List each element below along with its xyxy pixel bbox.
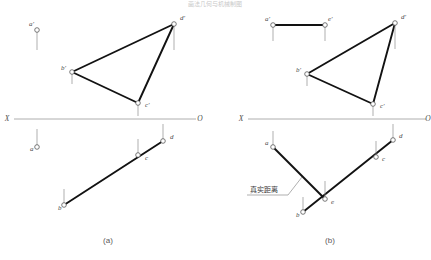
panel-b: XOa'e'b'c'd'aebcd真实距离(b)	[238, 13, 431, 245]
b-prime-marker	[305, 72, 310, 77]
c-prime-label: c'	[380, 102, 385, 110]
a-prime-marker	[35, 28, 40, 33]
edge-c-prime-b-prime	[72, 72, 138, 103]
descriptive-geometry-figure: 画法几何与机械制图XOa'b'c'd'abcd(a)XOa'e'b'c'd'ae…	[0, 0, 431, 260]
e-prime-label: e'	[328, 15, 333, 23]
a-prime-label: a'	[265, 15, 271, 23]
figure-title: 画法几何与机械制图	[188, 0, 242, 8]
c-point-marker	[136, 153, 141, 158]
axis-label-o: O	[425, 114, 431, 123]
b-point-label: b	[296, 211, 300, 219]
c-prime-marker	[371, 102, 376, 107]
a-point-marker	[271, 145, 276, 150]
d-point-marker	[391, 138, 396, 143]
e-point-label: e	[331, 198, 334, 206]
panel-a: XOa'b'c'd'abcd(a)	[4, 14, 204, 245]
d-prime-label: d'	[401, 13, 407, 21]
panel-b-caption: (b)	[325, 236, 335, 245]
axis-label-x: X	[4, 114, 10, 123]
b-point-label: b	[58, 204, 62, 212]
edge-b-prime-d-prime	[72, 24, 174, 72]
edge-d-prime-c-prime	[138, 24, 174, 103]
figure-root: 画法几何与机械制图XOa'b'c'd'abcd(a)XOa'e'b'c'd'ae…	[0, 0, 431, 260]
b-point-marker	[301, 210, 306, 215]
c-point-marker	[374, 155, 379, 160]
edge-b-d-plan	[303, 140, 393, 212]
a-point-label: a	[265, 139, 269, 147]
edge-a-e-plan	[273, 147, 325, 199]
d-prime-marker	[393, 21, 398, 26]
c-point-label: c	[382, 155, 386, 163]
a-point-label: a	[30, 145, 34, 153]
b-prime-label: b'	[296, 66, 302, 74]
e-prime-marker	[323, 23, 328, 28]
c-prime-label: c'	[145, 101, 150, 109]
edge-b-d-plan	[64, 141, 163, 205]
b-point-marker	[62, 203, 67, 208]
a-prime-label: a'	[29, 20, 35, 28]
b-prime-label: b'	[61, 64, 67, 72]
b-prime-marker	[70, 70, 75, 75]
true-distance-note-text: 真实距离	[250, 185, 278, 194]
a-prime-marker	[271, 23, 276, 28]
axis-label-x: X	[238, 114, 244, 123]
a-point-marker	[35, 145, 40, 150]
d-prime-label: d'	[180, 14, 186, 22]
edge-b-prime-d-prime	[307, 23, 395, 74]
d-point-label: d	[170, 133, 174, 141]
d-point-marker	[161, 139, 166, 144]
e-point-marker	[323, 197, 328, 202]
c-point-label: c	[145, 154, 149, 162]
c-prime-marker	[136, 101, 141, 106]
d-point-label: d	[399, 132, 403, 140]
edge-c-prime-b-prime	[307, 74, 373, 104]
axis-label-o: O	[197, 114, 203, 123]
edge-d-prime-c-prime	[373, 23, 395, 104]
d-prime-marker	[172, 22, 177, 27]
true-distance-note-leader	[288, 177, 302, 195]
panel-a-caption: (a)	[103, 236, 113, 245]
